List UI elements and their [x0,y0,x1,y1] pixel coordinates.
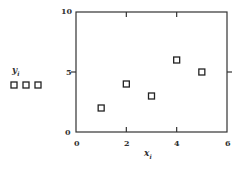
y-tick-5: 5 [66,68,72,76]
legend-square-marker [23,82,29,88]
scatter-plot [0,0,239,172]
data-point-square [199,69,205,75]
data-point-square [174,57,180,63]
x-tick-2: 2 [124,139,130,147]
legend-square-marker [11,82,17,88]
data-points [98,57,205,111]
x-tick-6: 6 [225,139,231,147]
data-point-square [149,93,155,99]
x-tick-0: 0 [74,139,80,147]
data-point-square [98,105,104,111]
legend-markers [11,82,41,88]
legend-square-marker [35,82,41,88]
y-tick-10: 10 [61,7,72,15]
x-tick-4: 4 [174,139,180,147]
y-axis-label: yi [12,65,20,77]
tick-marks [71,12,232,132]
data-point-square [123,81,129,87]
x-axis-label: xi [144,148,152,160]
y-tick-0: 0 [65,128,71,136]
